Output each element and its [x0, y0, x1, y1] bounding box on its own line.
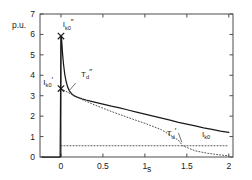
x-axis-unit-label: s	[147, 164, 151, 174]
x-tick-label: 0.5	[97, 161, 109, 171]
y-tick-label: 1	[30, 132, 35, 142]
y-tick-label: 6	[30, 29, 35, 39]
x-tick-label: 0	[59, 161, 64, 171]
x-tick-label: 1.5	[181, 161, 193, 171]
figure-container: 00.511.52 01234567 p.u. s Ik0″Ik0′Td″Td′…	[0, 0, 252, 180]
y-tick-label: 5	[30, 50, 35, 60]
y-tick-label: 4	[30, 70, 35, 80]
x-tick-label: 2	[226, 161, 231, 171]
y-tick-label: 3	[30, 91, 35, 101]
y-tick-label: 0	[30, 152, 35, 162]
short-circuit-current-chart: 00.511.52 01234567 p.u. s Ik0″Ik0′Td″Td′…	[0, 0, 252, 180]
y-tick-label: 2	[30, 111, 35, 121]
chart-background	[0, 0, 252, 180]
y-tick-label: 7	[30, 9, 35, 19]
y-axis-unit-label: p.u.	[12, 20, 26, 30]
